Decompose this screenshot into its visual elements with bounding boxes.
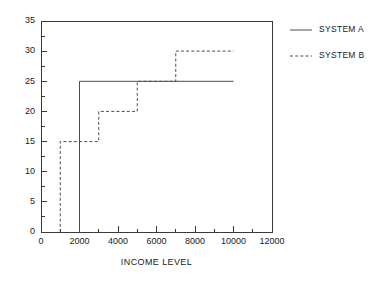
y-ticklabel-10: 10 xyxy=(25,166,35,176)
legend-label-system-b: SYSTEM B xyxy=(319,50,364,60)
legend-label-system-a: SYSTEM A xyxy=(319,24,364,34)
y-ticklabel-0: 0 xyxy=(30,226,35,236)
x-ticklabel-2000: 2000 xyxy=(69,236,89,246)
x-ticklabel-4000: 4000 xyxy=(108,236,128,246)
y-ticklabel-20: 20 xyxy=(25,106,35,116)
y-ticklabel-35: 35 xyxy=(25,15,35,25)
x-ticklabel-0: 0 xyxy=(38,236,43,246)
y-ticklabel-5: 5 xyxy=(30,196,35,206)
x-ticklabel-6000: 6000 xyxy=(146,236,166,246)
y-ticklabel-30: 30 xyxy=(25,45,35,55)
chart-figure: 0 5 10 15 20 25 30 35 0 xyxy=(0,0,371,282)
step-chart-svg: 0 5 10 15 20 25 30 35 0 xyxy=(0,0,371,282)
x-ticklabel-12000: 12000 xyxy=(259,236,284,246)
y-ticklabel-15: 15 xyxy=(25,136,35,146)
x-axis-title: INCOME LEVEL xyxy=(121,257,192,267)
x-ticklabel-10000: 10000 xyxy=(221,236,246,246)
y-ticklabel-25: 25 xyxy=(25,76,35,86)
x-ticklabel-8000: 8000 xyxy=(185,236,205,246)
